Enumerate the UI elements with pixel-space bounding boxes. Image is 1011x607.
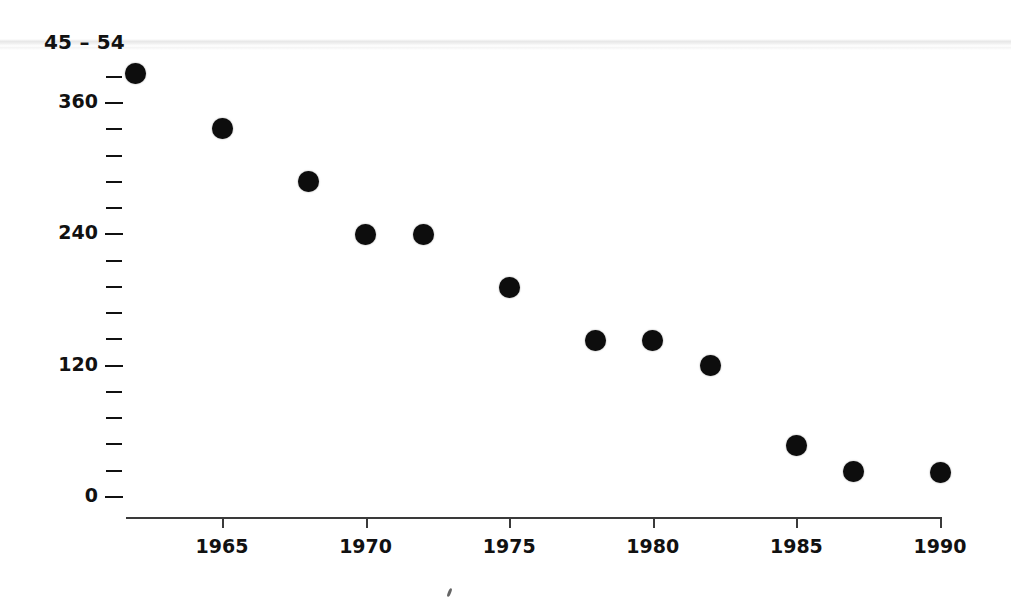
x-axis-tick-label: 1975 [459, 535, 559, 557]
data-point [700, 355, 721, 376]
data-point [212, 118, 233, 139]
y-axis-minor-tick [106, 76, 122, 78]
data-point [642, 330, 663, 351]
data-point [413, 224, 434, 245]
y-axis-minor-tick [106, 470, 122, 472]
y-axis-minor-tick [106, 260, 122, 262]
page-title: 45 – 54 [44, 30, 125, 54]
y-axis-minor-tick [106, 207, 122, 209]
x-axis-tick-label: 1985 [746, 535, 846, 557]
x-axis-tick-label: 1980 [603, 535, 703, 557]
y-axis-minor-tick [106, 312, 122, 314]
y-axis-major-tick [105, 102, 123, 104]
x-axis-line [126, 517, 942, 519]
ink-speck [446, 588, 452, 597]
data-point [585, 330, 606, 351]
data-point [125, 63, 146, 84]
y-axis-tick-label: 240 [36, 221, 98, 243]
y-axis-major-tick [105, 365, 123, 367]
y-axis-minor-tick [106, 338, 122, 340]
scatter-chart: 45 – 54 0120240360 196519701975198019851… [0, 0, 1011, 607]
scan-artifact-line [0, 39, 1011, 46]
y-axis-minor-tick [106, 443, 122, 445]
y-axis-major-tick [105, 496, 123, 498]
data-point [786, 435, 807, 456]
y-axis-major-tick [105, 233, 123, 235]
y-axis-minor-tick [106, 128, 122, 130]
data-point [843, 461, 864, 482]
x-axis-tick-label: 1965 [172, 535, 272, 557]
y-axis-tick-label: 120 [36, 353, 98, 375]
scan-artifact-line-secondary [0, 46, 1011, 50]
y-axis-minor-tick [106, 391, 122, 393]
y-axis-tick-label: 360 [36, 90, 98, 112]
x-axis-tick-label: 1990 [890, 535, 990, 557]
x-axis-tick-label: 1970 [316, 535, 416, 557]
data-point [930, 462, 951, 483]
y-axis-tick-label: 0 [36, 484, 98, 506]
data-point [355, 224, 376, 245]
y-axis-minor-tick [106, 155, 122, 157]
y-axis-minor-tick [106, 417, 122, 419]
data-point [499, 277, 520, 298]
y-axis-minor-tick [106, 286, 122, 288]
y-axis-minor-tick [106, 181, 122, 183]
data-point [298, 171, 319, 192]
